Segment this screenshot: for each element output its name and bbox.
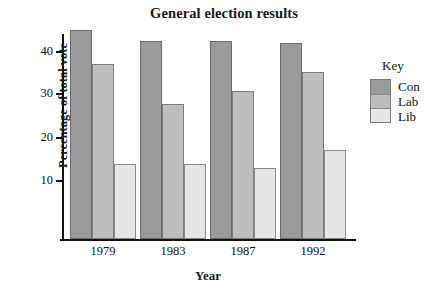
- bar-con-1983: [140, 41, 162, 239]
- y-tick-label: 10: [41, 173, 54, 188]
- x-axis-line: [60, 239, 356, 241]
- legend: Key Con Lab Lib: [370, 58, 448, 124]
- x-axis-title: Year: [62, 268, 354, 284]
- legend-swatch-stack: [370, 79, 391, 123]
- x-tick-label-1987: 1987: [231, 244, 256, 259]
- bar-con-1987: [210, 41, 232, 239]
- chart-title: General election results: [0, 5, 448, 22]
- bar-con-1992: [280, 43, 302, 239]
- x-tick-label-1992: 1992: [301, 244, 326, 259]
- legend-title: Key: [382, 58, 448, 74]
- bar-lib-1987: [254, 168, 276, 239]
- y-tick-label: 20: [41, 130, 54, 145]
- legend-swatch-lab: [371, 94, 390, 108]
- legend-label-lib: Lib: [398, 109, 420, 124]
- bar-lib-1983: [184, 164, 206, 239]
- x-tick-label-1983: 1983: [161, 244, 186, 259]
- y-tick-label: 40: [41, 44, 54, 59]
- bar-lab-1979: [92, 64, 114, 239]
- bar-chart: General election results 40 30 20 10 Per…: [0, 0, 448, 296]
- legend-swatch-lib: [371, 108, 390, 122]
- x-tick-label-1979: 1979: [91, 244, 116, 259]
- bar-lab-1983: [162, 104, 184, 239]
- plot-area: 40 30 20 10 Percentage of total vote 197…: [62, 30, 354, 241]
- bar-lab-1992: [302, 72, 324, 239]
- bar-con-1979: [70, 30, 92, 239]
- legend-label-lab: Lab: [398, 94, 420, 109]
- bar-lib-1992: [324, 150, 346, 239]
- bar-lab-1987: [232, 91, 254, 239]
- bar-lib-1979: [114, 164, 136, 239]
- y-tick-label: 30: [41, 86, 54, 101]
- legend-label-con: Con: [398, 79, 420, 94]
- y-axis-title: Percentage of total vote: [56, 43, 71, 168]
- legend-swatch-con: [371, 80, 390, 94]
